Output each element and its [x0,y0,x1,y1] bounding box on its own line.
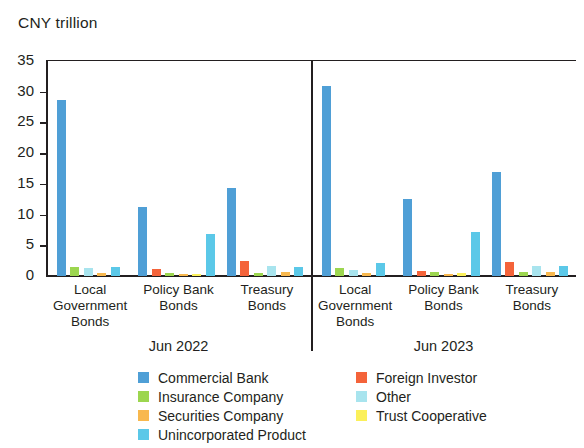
bar [294,267,303,276]
chart-legend: Commercial BankInsurance CompanySecuriti… [138,368,578,444]
bar [84,268,93,276]
y-tick-label: 20 [4,143,34,160]
bar [559,266,568,276]
bar [179,274,188,276]
legend-label: Foreign Investor [376,370,477,386]
legend-label: Other [376,389,411,405]
legend-item[interactable]: Insurance Company [138,387,356,406]
legend-swatch-icon [138,372,149,383]
bar [492,172,501,276]
y-tick-label: 5 [4,235,34,252]
x-period-label: Jun 2023 [364,338,524,354]
bar [417,271,426,276]
y-tick-label: 0 [4,266,34,283]
legend-item[interactable]: Foreign Investor [356,368,574,387]
y-tick-label: 25 [4,112,34,129]
bar-group [488,61,576,276]
bar-group [46,61,134,276]
bar [254,273,263,276]
bar [457,273,466,276]
bar [165,273,174,276]
y-axis-unit-label: CNY trillion [18,14,98,32]
legend-item[interactable]: Commercial Bank [138,368,356,387]
bar [322,86,331,276]
bar [111,267,120,276]
bar [97,273,106,276]
period-divider [311,61,313,351]
bar-group [134,61,222,276]
x-category-label-line: Bonds [35,314,145,330]
bar [376,263,385,277]
bar [532,266,541,276]
bar [505,262,514,276]
bar [546,272,555,276]
legend-item[interactable]: Other [356,387,574,406]
bar [519,272,528,276]
bar [227,188,236,276]
x-period-label: Jun 2022 [99,338,259,354]
x-category-label: TreasuryBonds [477,282,584,314]
bar [335,268,344,276]
bar [57,100,66,276]
legend-swatch-icon [356,410,367,421]
legend-column-right: Foreign InvestorOtherTrust Cooperative [356,368,574,444]
legend-item[interactable]: Trust Cooperative [356,406,574,425]
bar [138,207,147,276]
legend-label: Securities Company [158,408,283,424]
legend-swatch-icon [356,391,367,402]
legend-label: Trust Cooperative [376,408,487,424]
legend-column-left: Commercial BankInsurance CompanySecuriti… [138,368,356,444]
x-category-label-line: Bonds [477,298,584,314]
legend-item[interactable]: Securities Company [138,406,356,425]
bar-group [223,61,311,276]
legend-label: Unincorporated Product [158,427,306,443]
bar-group [399,61,487,276]
bar [70,267,79,276]
bar [362,273,371,276]
bar [206,234,215,276]
bar [444,274,453,276]
bar [349,270,358,276]
y-tick-label: 10 [4,205,34,222]
bar-group [311,61,399,276]
bar [281,272,290,276]
bar [192,274,201,276]
bar [430,272,439,276]
y-tick-label: 30 [4,82,34,99]
y-tick-label: 35 [4,51,34,68]
legend-swatch-icon [356,372,367,383]
bar [403,199,412,276]
legend-label: Commercial Bank [158,370,268,386]
y-tick-label: 15 [4,174,34,191]
bar [152,269,161,276]
bar [267,266,276,276]
legend-label: Insurance Company [158,389,283,405]
bar [471,232,480,276]
x-category-label-line: Treasury [477,282,584,298]
bond-holdings-bar-chart: CNY trillion 05101520253035 LocalGovernm… [0,0,584,448]
x-category-label-line: Bonds [300,314,410,330]
legend-swatch-icon [138,410,149,421]
bar [240,261,249,276]
legend-swatch-icon [138,429,149,440]
legend-swatch-icon [138,391,149,402]
legend-item[interactable]: Unincorporated Product [138,425,356,444]
